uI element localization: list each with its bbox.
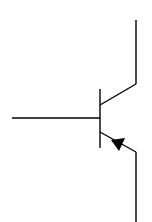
collector-diagonal (100, 84, 136, 105)
transistor-diagram (0, 0, 152, 222)
